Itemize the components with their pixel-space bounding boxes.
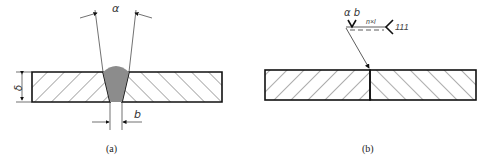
groove-angle-label: α (112, 2, 120, 15)
left-plate (32, 72, 110, 102)
caption-b: (b) (362, 143, 374, 155)
panel-a: α δ b (a) (13, 2, 222, 155)
thickness-label: δ (13, 85, 24, 91)
tail-symbol-icon (386, 20, 393, 34)
right-plate (122, 72, 222, 102)
weld-diagram: α δ b (a) α b n×l 111 (b) (0, 0, 488, 165)
caption-a: (a) (106, 143, 117, 155)
leader-line (346, 28, 369, 68)
left-plate-b (265, 70, 370, 100)
panel-b: α b n×l 111 (b) (265, 7, 476, 155)
angle-ext-left (95, 10, 103, 72)
angle-ext-right (129, 10, 136, 72)
v-groove-symbol-icon (348, 20, 356, 27)
process-number-label: 111 (395, 22, 409, 32)
length-spec-label: n×l (366, 18, 376, 25)
root-gap-label: b (134, 108, 141, 121)
right-plate-b (370, 70, 476, 100)
angle-gap-label: α b (344, 7, 360, 18)
angle-arrow-left (80, 13, 97, 18)
angle-arrow-right (135, 13, 152, 18)
